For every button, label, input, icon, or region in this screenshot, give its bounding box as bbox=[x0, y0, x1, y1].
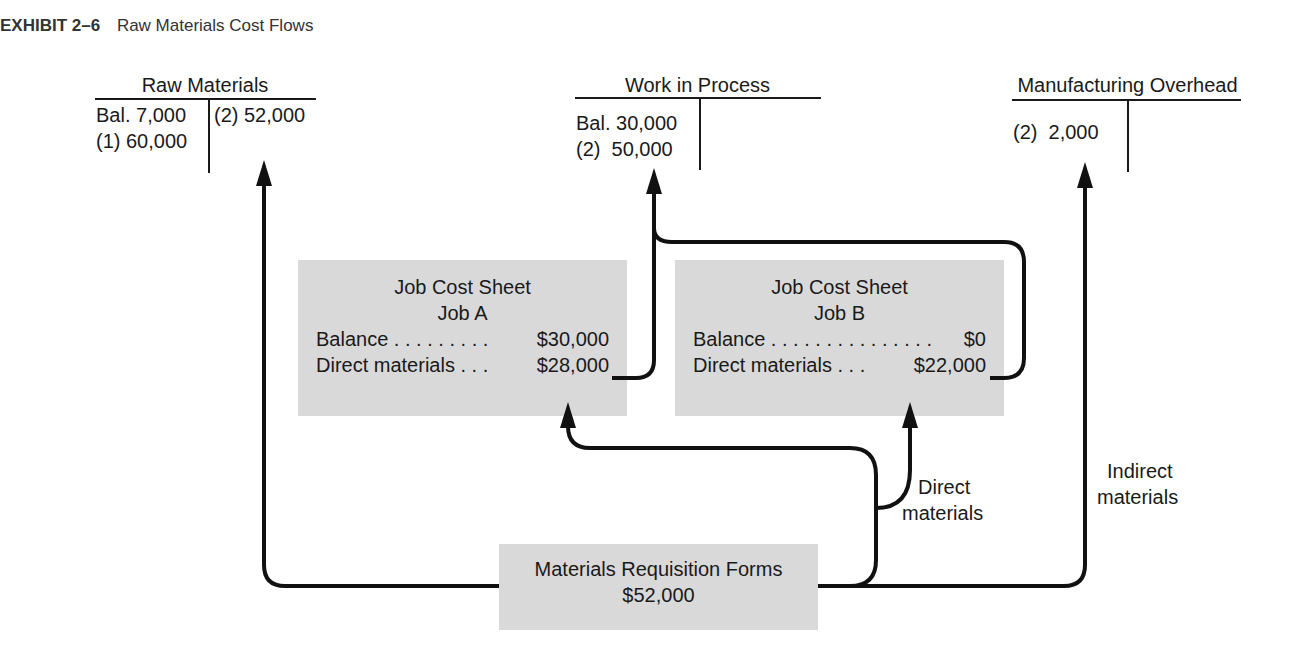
flow-line-job-b-to-wip bbox=[654, 228, 1024, 378]
flow-arrows bbox=[0, 0, 1308, 658]
arrowhead-icon bbox=[646, 168, 662, 194]
arrowhead-icon bbox=[560, 402, 576, 428]
arrowhead-icon bbox=[902, 402, 918, 428]
arrowhead-icon bbox=[1077, 162, 1093, 188]
flow-line-job-a-to-wip bbox=[612, 180, 654, 378]
flow-line-to-job-b bbox=[876, 420, 910, 508]
arrowhead-icon bbox=[256, 160, 272, 186]
flow-line-direct-materials-trunk bbox=[568, 420, 876, 586]
flow-line-to-raw-materials bbox=[264, 180, 499, 586]
